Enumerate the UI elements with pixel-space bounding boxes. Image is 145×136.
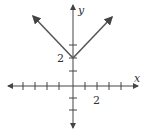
graph: y x 2 2: [0, 0, 145, 136]
curve-left: [33, 16, 73, 58]
y-tick-label: 2: [57, 52, 64, 65]
curve-right: [73, 17, 112, 58]
y-axis-label: y: [77, 4, 85, 17]
x-tick-label: 2: [93, 94, 100, 107]
x-axis-label: x: [134, 72, 141, 85]
